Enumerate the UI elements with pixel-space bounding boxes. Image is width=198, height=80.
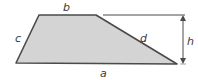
label-side-d: d bbox=[140, 32, 148, 45]
label-side-b: b bbox=[63, 1, 70, 14]
label-side-a: a bbox=[100, 67, 107, 80]
trapezoid-diagram: b a c d h bbox=[0, 0, 198, 80]
label-side-c: c bbox=[15, 32, 21, 45]
label-height-h: h bbox=[187, 35, 194, 48]
trapezoid-shape bbox=[16, 15, 177, 64]
